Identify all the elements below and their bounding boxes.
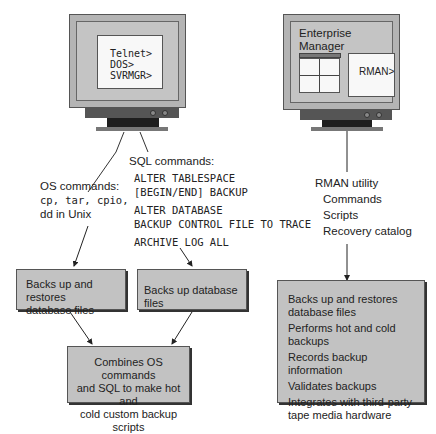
- prompt-dos: DOS>: [110, 59, 152, 70]
- os-commands-note: dd in Unix: [40, 207, 129, 221]
- sql-commands-heading: SQL commands:: [129, 154, 311, 168]
- prompt-telnet: Telnet>: [110, 48, 152, 59]
- rman-item: Scripts: [323, 208, 412, 222]
- left-monitor-screen: Telnet> DOS> SVRMGR>: [97, 35, 163, 89]
- rman-heading: RMAN utility: [315, 176, 412, 190]
- sql-line: BACKUP CONTROL FILE TO TRACE: [134, 217, 311, 231]
- combined-box-line: and SQL to make hot and: [68, 382, 189, 408]
- sql-line: ALTER TABLESPACE: [134, 171, 311, 185]
- os-commands-label: OS commands: cp, tar, cpio, dd in Unix: [40, 179, 129, 221]
- rman-prompt: RMAN>: [359, 66, 394, 77]
- sql-backup-box: Backs up database files: [137, 269, 247, 310]
- combined-scripts-box: Combines OS commands and SQL to make hot…: [67, 346, 190, 403]
- rman-feature: Validates backups: [288, 380, 424, 393]
- os-backup-box: Backs up and restores database files: [16, 269, 126, 310]
- left-knob-icon: [162, 110, 168, 116]
- left-monitor: Telnet> DOS> SVRMGR>: [69, 14, 186, 108]
- right-knob-icon: [364, 112, 370, 118]
- rman-item: Recovery catalog: [323, 224, 412, 238]
- os-box-line: Backs up and restores: [26, 278, 125, 304]
- sql-box-line: Backs up database files: [144, 284, 246, 310]
- rman-feature: tape media hardware: [288, 409, 424, 422]
- sql-commands-label: SQL commands: ALTER TABLESPACE [BEGIN/EN…: [129, 154, 311, 249]
- rman-utility-label: RMAN utility Commands Scripts Recovery c…: [315, 176, 412, 238]
- rman-feature: database files: [288, 306, 424, 319]
- prompt-svrmgr: SVRMGR>: [110, 70, 152, 81]
- right-knob-icon: [376, 112, 382, 118]
- rman-item: Commands: [323, 192, 412, 206]
- right-monitor: Enterprise Manager RMAN>: [283, 14, 400, 110]
- rman-feature: Performs hot and cold backups: [288, 322, 424, 348]
- rman-feature: Integrates with third-party: [288, 396, 424, 409]
- sql-line: ARCHIVE LOG ALL: [134, 235, 311, 249]
- os-commands-heading: OS commands:: [40, 179, 129, 193]
- enterprise-manager-title: Enterprise: [299, 27, 351, 40]
- sql-line: [BEGIN/END] BACKUP: [134, 185, 311, 199]
- enterprise-manager-title-2: Manager: [299, 40, 351, 53]
- os-box-line: database files: [26, 304, 125, 317]
- rman-feature: Backs up and restores: [288, 293, 424, 306]
- right-monitor-foot: [311, 127, 383, 131]
- left-knob-icon: [150, 110, 156, 116]
- os-commands-list: cp, tar, cpio,: [40, 193, 129, 207]
- rman-features-box: Backs up and restores database files Per…: [277, 280, 425, 403]
- rman-prompt-window: RMAN>: [348, 53, 395, 97]
- combined-box-line: cold custom backup scripts: [68, 408, 189, 434]
- sql-line: ALTER DATABASE: [134, 203, 311, 217]
- left-monitor-foot: [96, 127, 168, 131]
- em-grid-window: [299, 58, 340, 93]
- combined-box-line: Combines OS commands: [68, 356, 189, 382]
- rman-feature: Records backup information: [288, 351, 424, 377]
